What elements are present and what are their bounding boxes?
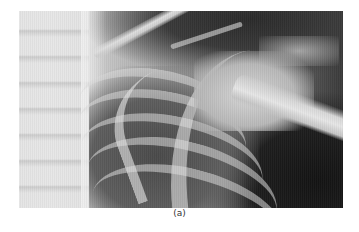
figure-caption: (a) — [0, 208, 359, 218]
film-grain — [19, 11, 343, 208]
xray-image — [19, 11, 343, 208]
